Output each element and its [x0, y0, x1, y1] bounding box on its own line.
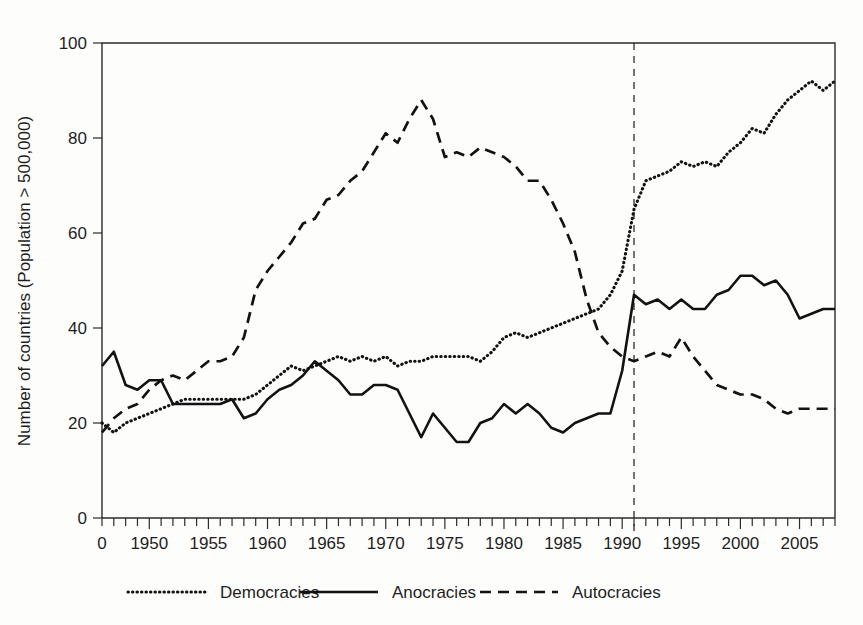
x-tick-label-1960: 1960 [249, 534, 287, 553]
x-tick-label-1970: 1970 [367, 534, 405, 553]
x-axis: 0195019551960196519701975198019851990199… [97, 518, 835, 553]
y-tick-label-80: 80 [68, 129, 87, 148]
x-tick-label-2005: 2005 [781, 534, 819, 553]
x-tick-label-1950: 1950 [130, 534, 168, 553]
legend-label-anocracies: Anocracies [392, 583, 476, 602]
data-series [102, 81, 835, 442]
y-tick-label-100: 100 [59, 34, 87, 53]
x-tick-label-1995: 1995 [662, 534, 700, 553]
x-origin-label: 0 [97, 534, 106, 553]
y-tick-label-40: 40 [68, 319, 87, 338]
y-axis: 020406080100 [59, 34, 102, 528]
x-tick-label-1990: 1990 [603, 534, 641, 553]
y-tick-label-60: 60 [68, 224, 87, 243]
y-tick-label-0: 0 [78, 509, 87, 528]
x-tick-label-1965: 1965 [308, 534, 346, 553]
series-autocracies [102, 100, 835, 433]
y-tick-label-20: 20 [68, 414, 87, 433]
x-tick-label-1955: 1955 [189, 534, 227, 553]
regimes-by-type-figure: 020406080100 019501955196019651970197519… [0, 0, 863, 625]
chart-legend: DemocraciesAnocraciesAutocracies [128, 583, 661, 602]
x-tick-label-1980: 1980 [485, 534, 523, 553]
plot-border [102, 43, 835, 518]
legend-label-autocracies: Autocracies [572, 583, 661, 602]
x-tick-label-1985: 1985 [544, 534, 582, 553]
series-democracies [102, 81, 835, 433]
x-tick-label-2000: 2000 [722, 534, 760, 553]
series-anocracies [102, 276, 835, 442]
y-axis-title: Number of countries (Population > 500,00… [15, 116, 34, 446]
chart-canvas: 020406080100 019501955196019651970197519… [0, 0, 863, 625]
plot-frame [102, 43, 835, 518]
x-tick-label-1975: 1975 [426, 534, 464, 553]
